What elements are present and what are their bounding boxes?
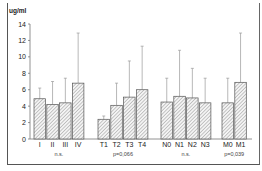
x-category-label: T1 [100,141,108,148]
bar-n1 [174,96,186,139]
y-tick-label: 14 [18,21,26,28]
x-category-label: N2 [188,141,197,148]
y-tick-label: 8 [22,70,26,77]
bar-m1 [235,82,247,139]
bar-n2 [187,98,199,139]
y-axis-unit-label: ug/ml [9,7,27,15]
x-category-label: III [62,141,68,148]
x-category-label: N3 [201,141,210,148]
x-category-label: M1 [236,141,246,148]
group-significance-label: n.s. [55,151,64,157]
bar-n3 [199,103,211,139]
x-category-label: T4 [138,141,146,148]
bar-ii [47,105,59,140]
x-category-label: IV [75,141,82,148]
bars [34,33,246,139]
bar-t4 [136,90,148,139]
x-category-label: T3 [125,141,133,148]
bar-i [34,99,46,139]
bar-m0 [222,103,234,139]
bar-t3 [124,97,136,139]
y-tick-label: 0 [22,136,26,143]
y-tick-label: 12 [18,37,26,44]
y-tick-label: 6 [22,86,26,93]
x-category-label: T2 [112,141,120,148]
group-significance-label: n.s. [182,151,191,157]
bar-t2 [111,105,123,139]
x-category-label: I [39,141,41,148]
bar-t1 [98,119,110,139]
group-significance-label: p=0,066 [113,151,133,157]
y-tick-label: 4 [22,103,26,110]
y-tick-label: 10 [18,53,26,60]
bar-n0 [161,102,173,139]
bar-iv [72,83,84,139]
bar-iii [60,103,72,139]
x-axis-labels: IIIIIIIVn.s.T1T2T3T4p=0,066N0N1N2N3n.s.M… [39,141,246,157]
group-significance-label: p=0,039 [224,151,244,157]
x-category-label: N0 [162,141,171,148]
x-category-label: M0 [223,141,233,148]
bar-chart: ug/ml 02468101214 IIIIIIIVn.s.T1T2T3T4p=… [0,0,262,171]
x-category-label: N1 [175,141,184,148]
y-tick-label: 2 [22,119,26,126]
x-category-label: II [51,141,55,148]
